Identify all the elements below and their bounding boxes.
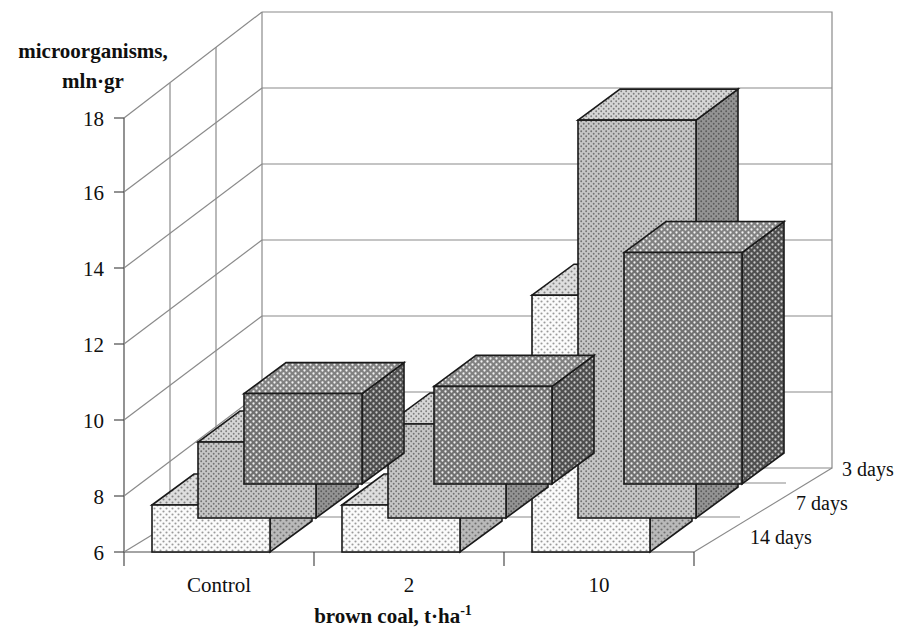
category-label-control: Control xyxy=(187,573,251,597)
y-tick-14: 14 xyxy=(83,257,105,281)
bar-2-3-days[interactable] xyxy=(434,355,594,484)
series-label-3-days: 3 days xyxy=(842,458,894,481)
x-axis-title-superscript: -1 xyxy=(460,603,472,618)
x-axis-title-main: brown coal, t·ha xyxy=(314,604,461,628)
category-label-10: 10 xyxy=(589,573,610,597)
y-tick-10: 10 xyxy=(83,409,104,433)
series-label-7-days: 7 days xyxy=(796,492,848,515)
svg-text:brown coal, t·ha-1: brown coal, t·ha-1 xyxy=(314,603,472,628)
y-tick-6: 6 xyxy=(94,541,105,565)
bar-front-face xyxy=(624,253,742,484)
3d-column-chart: 18 16 14 12 10 8 6 microorganisms, mln·g… xyxy=(0,0,903,629)
bar-front-face xyxy=(244,394,362,484)
series-label-14-days: 14 days xyxy=(750,526,812,549)
bar-control-3-days[interactable] xyxy=(244,363,404,484)
bar-10-3-days[interactable] xyxy=(624,222,784,484)
bar-side-face xyxy=(742,222,784,484)
y-axis-title-line2: mln·gr xyxy=(62,69,124,93)
bar-front-face xyxy=(434,386,552,484)
chart-container: 18 16 14 12 10 8 6 microorganisms, mln·g… xyxy=(0,0,903,629)
x-axis-title: brown coal, t·ha-1 xyxy=(314,603,472,628)
y-tick-18: 18 xyxy=(83,107,104,131)
y-tick-8: 8 xyxy=(94,485,105,509)
category-label-2: 2 xyxy=(404,573,415,597)
y-axis-title-line1: microorganisms, xyxy=(18,39,168,63)
y-tick-16: 16 xyxy=(83,181,104,205)
y-tick-12: 12 xyxy=(83,333,104,357)
